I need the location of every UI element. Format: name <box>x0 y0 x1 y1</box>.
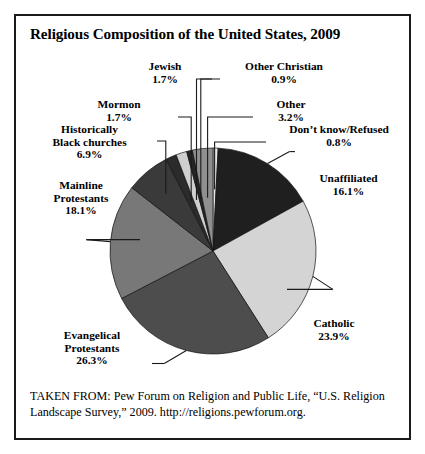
callout-jewish-label: Jewish <box>149 60 182 72</box>
callout-catholic-value: 23.9% <box>288 330 380 343</box>
callout-historically-black-churches: Historically Black churches 6.9% <box>22 123 157 161</box>
pie-slices <box>110 148 316 354</box>
callout-historically-black-churches-label-line2: Black churches <box>52 136 126 148</box>
callout-mainline-protestants: Mainline Protestants 18.1% <box>22 179 140 217</box>
callout-other-value: 3.2% <box>256 111 326 124</box>
leader-catholic <box>313 276 333 289</box>
leader-unaffiliated <box>268 152 290 164</box>
callout-unaffiliated-label: Unaffiliated <box>319 172 377 184</box>
leader-evangelical-protestants <box>164 351 186 364</box>
callout-other-christian-value: 0.9% <box>224 73 344 86</box>
callout-catholic-label: Catholic <box>313 317 354 329</box>
pie-chart-plot-area: Jewish 1.7% Mormon 1.7% Historically Bla… <box>16 16 409 376</box>
callout-unaffiliated: Unaffiliated 16.1% <box>296 172 401 197</box>
callout-dont-know-refused-label: Don’t know/Refused <box>289 123 389 135</box>
callout-historically-black-churches-label-line1: Historically <box>61 123 118 135</box>
callout-other: Other 3.2% <box>256 98 326 123</box>
callout-mainline-protestants-label-line2: Protestants <box>54 192 109 204</box>
callout-mormon-value: 1.7% <box>64 111 174 124</box>
callout-catholic: Catholic 23.9% <box>288 317 380 342</box>
callout-historically-black-churches-value: 6.9% <box>22 148 157 161</box>
callout-dont-know-refused-value: 0.8% <box>268 136 410 149</box>
callout-other-christian-label: Other Christian <box>245 60 323 72</box>
callout-mormon: Mormon 1.7% <box>64 98 174 123</box>
callout-other-label: Other <box>276 98 305 110</box>
callout-other-christian: Other Christian 0.9% <box>224 60 344 85</box>
callout-jewish-value: 1.7% <box>122 73 208 86</box>
callout-evangelical-protestants: Evangelical Protestants 26.3% <box>32 329 152 367</box>
callout-mainline-protestants-value: 18.1% <box>22 204 140 217</box>
callout-evangelical-protestants-label-line1: Evangelical <box>64 329 120 341</box>
callout-dont-know-refused: Don’t know/Refused 0.8% <box>268 123 410 148</box>
source-note: TAKEN FROM: Pew Forum on Religion and Pu… <box>30 388 398 420</box>
callout-evangelical-protestants-label-line2: Protestants <box>65 342 120 354</box>
callout-mormon-label: Mormon <box>97 98 140 110</box>
callout-jewish: Jewish 1.7% <box>122 60 208 85</box>
callout-evangelical-protestants-value: 26.3% <box>32 354 152 367</box>
figure-frame: Religious Composition of the United Stat… <box>14 14 411 440</box>
callout-unaffiliated-value: 16.1% <box>296 185 401 198</box>
callout-mainline-protestants-label-line1: Mainline <box>59 179 103 191</box>
